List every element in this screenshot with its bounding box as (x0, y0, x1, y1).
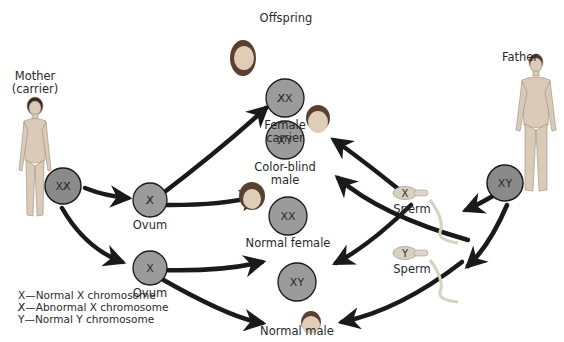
mother-figure (19, 97, 51, 216)
offspring-genotype-female-carrier: X̸X (265, 92, 305, 105)
inheritance-diagram: Offspring Mother (carrier) Father XX̸ XY… (0, 0, 564, 342)
offspring-genotype-colorblind-male: X̸Y (265, 134, 305, 147)
legend-item-abnormal-x: X̸—Abnormal X chromosome (18, 301, 168, 313)
offspring-label-normal-female: Normal female (243, 237, 333, 250)
face-female-carrier (230, 40, 256, 76)
offspring-label-colorblind-male: Color-blind male (245, 161, 325, 187)
ovum-normal-genotype: X (130, 262, 170, 275)
legend-item-normal-x: X—Normal X chromosome (18, 289, 168, 301)
legend-text: —Abnormal X chromosome (25, 301, 168, 313)
offspring-label-normal-male: Normal male (257, 325, 337, 338)
legend: X—Normal X chromosome X̸—Abnormal X chro… (18, 289, 168, 325)
sperm-y-genotype: Y (395, 247, 415, 260)
ovum-abnormal-genotype: X̸ (130, 194, 170, 207)
arrow-mother-to-ovum-abnormal (85, 188, 128, 198)
arrow-ovum-normal-to-normal-male (160, 278, 262, 323)
mother-label-line2: (carrier) (5, 83, 65, 96)
legend-item-normal-y: Y—Normal Y chromosome (18, 313, 168, 325)
offspring-title: Offspring (246, 12, 326, 25)
sperm-y-label: Sperm (387, 263, 437, 276)
offspring-genotype-normal-male: XY (277, 276, 317, 289)
sperm-x-label: Sperm (387, 203, 437, 216)
arrow-ovum-normal-to-normal-female (160, 262, 262, 270)
arrow-father-to-sperm-y (468, 205, 507, 266)
mother-genotype: XX̸ (43, 180, 83, 193)
arrow-mother-to-ovum-normal (62, 208, 122, 262)
offspring-genotype-normal-female: XX (268, 210, 308, 223)
legend-text: —Normal Y chromosome (24, 313, 154, 325)
father-genotype: XY (485, 177, 525, 190)
legend-text: —Normal X chromosome (25, 289, 156, 301)
father-label: Father (490, 51, 550, 64)
ovum-abnormal-label: Ovum (125, 219, 175, 232)
father-figure (516, 54, 556, 191)
sperm-x-genotype: X (395, 187, 415, 200)
mother-label: Mother (carrier) (5, 70, 65, 96)
label-line2: male (245, 174, 325, 187)
